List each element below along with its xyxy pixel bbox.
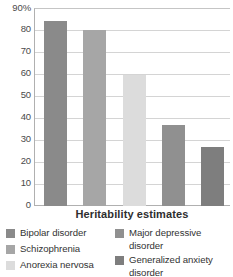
bar-anorexia-nervosa: [123, 75, 146, 206]
legend-item-generalized-anxiety-disorder: Generalized anxiety disorder: [115, 254, 233, 277]
y-tick-label: 80: [21, 24, 31, 34]
heritability-bar-chart: 90% 80 70 60 50 40 30 20 10 0: [0, 0, 233, 277]
legend: Bipolar disorder Schizophrenia Anorexia …: [0, 227, 233, 277]
plot-region: 90% 80 70 60 50 40 30 20 10 0: [0, 0, 233, 212]
y-tick-label: 90%: [12, 3, 31, 13]
y-tick-label: 40: [21, 112, 31, 122]
legend-item-bipolar-disorder: Bipolar disorder: [6, 227, 114, 241]
y-tick-label: 0: [26, 200, 31, 210]
x-axis-title: Heritability estimates: [34, 208, 230, 220]
legend-swatch-icon: [115, 229, 124, 238]
bar-major-depressive-disorder: [162, 125, 185, 206]
y-tick-label: 20: [21, 156, 31, 166]
legend-swatch-icon: [6, 245, 15, 254]
legend-label: Generalized anxiety disorder: [129, 254, 233, 277]
y-tick-label: 60: [21, 68, 31, 78]
bars-layer: [34, 8, 230, 206]
legend-item-anorexia-nervosa: Anorexia nervosa: [6, 259, 114, 273]
legend-label: Schizophrenia: [20, 243, 80, 256]
y-tick-label: 50: [21, 90, 31, 100]
legend-item-schizophrenia: Schizophrenia: [6, 243, 114, 257]
y-tick-label: 10: [21, 178, 31, 188]
y-tick-label: 30: [21, 134, 31, 144]
legend-label: Anorexia nervosa: [20, 259, 94, 272]
legend-swatch-icon: [6, 229, 15, 238]
bar-bipolar-disorder: [44, 21, 67, 206]
y-tick-label: 70: [21, 46, 31, 56]
legend-label: Major depressive disorder: [129, 227, 233, 252]
legend-item-major-depressive-disorder: Major depressive disorder: [115, 227, 233, 252]
legend-column-right: Major depressive disorder Generalized an…: [115, 227, 233, 277]
bar-schizophrenia: [83, 30, 106, 206]
legend-swatch-icon: [6, 261, 15, 270]
legend-swatch-icon: [115, 256, 124, 265]
legend-column-left: Bipolar disorder Schizophrenia Anorexia …: [6, 227, 114, 275]
legend-label: Bipolar disorder: [20, 227, 86, 240]
bar-generalized-anxiety-disorder: [201, 147, 224, 206]
y-axis: 90% 80 70 60 50 40 30 20 10 0: [0, 0, 33, 212]
